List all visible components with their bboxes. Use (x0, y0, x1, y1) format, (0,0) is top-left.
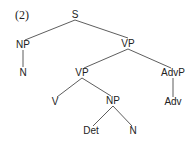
node-vp-top: VP (121, 39, 134, 49)
node-vp-inner: VP (75, 68, 88, 78)
node-n-subject: N (19, 68, 26, 78)
node-adv: Adv (164, 97, 181, 107)
node-s: S (72, 10, 79, 20)
syntax-tree-diagram: (2) S NP N VP VP AdvP V NP Adv Det N (0, 0, 193, 142)
node-np-subject: NP (16, 40, 30, 50)
node-det: Det (83, 126, 99, 136)
node-advp: AdvP (161, 68, 185, 78)
node-v: V (52, 97, 59, 107)
example-number: (2) (15, 9, 29, 21)
node-n-object: N (129, 126, 136, 136)
node-np-object: NP (106, 96, 120, 106)
